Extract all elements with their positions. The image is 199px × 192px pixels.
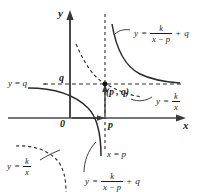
eq-top-equals: = — [140, 29, 148, 38]
eq-top-denominator: x − p — [150, 33, 172, 43]
eq-bot-numerator: k — [108, 172, 116, 181]
leader-top-equation — [115, 30, 130, 34]
label-asymptote-vertical: x = p — [107, 150, 126, 159]
eq-right-numerator: k — [172, 92, 180, 101]
eq-right-lhs: y — [155, 97, 161, 106]
eq-bl-fraction: k x — [22, 157, 32, 176]
eq-right-fraction: k x — [171, 92, 181, 111]
x-tick-label-p: p — [108, 120, 113, 130]
label-equation-translated-bottom: y = k x − p + q — [84, 172, 141, 191]
leader-lines-group — [40, 30, 152, 172]
y-tick-label-q: q — [59, 73, 64, 83]
eq-top-lhs: y — [133, 29, 139, 38]
label-asymptote-horizontal: y = q — [8, 79, 27, 88]
eq-bot-lhs: y — [84, 177, 90, 186]
eq-top-plus: + — [174, 29, 182, 38]
p-offset-arrowhead — [97, 115, 105, 120]
eq-bot-equals: = — [91, 177, 99, 186]
asymptote-h-text: y = q — [8, 79, 27, 88]
label-equation-base-right: y = k x — [155, 92, 181, 111]
leader-bottom-equation — [84, 142, 96, 172]
eq-top-numerator: k — [157, 24, 165, 33]
asymptote-v-text: x = p — [107, 150, 126, 159]
eq-bl-denominator: x — [23, 166, 31, 176]
eq-bot-denominator: x − p — [101, 181, 123, 191]
y-axis-label: y — [58, 8, 63, 19]
eq-bot-fraction: k x − p — [100, 172, 124, 191]
eq-bl-equals: = — [13, 162, 21, 171]
label-equation-translated-top: y = k x − p + q — [133, 24, 190, 43]
eq-bl-lhs: y — [6, 162, 12, 171]
point-label-p-q: (p , q) — [106, 88, 129, 98]
point-p-q-marker — [103, 82, 108, 87]
y-axis-arrowhead — [66, 10, 73, 20]
eq-bot-plus: + — [125, 177, 133, 186]
label-equation-base-bottomleft: y = k x — [6, 157, 32, 176]
eq-top-constant: q — [183, 29, 190, 38]
hyperbola-diagram: y x 0 q p y = q x = p (p , q) y = k x − … — [0, 0, 199, 192]
eq-right-equals: = — [162, 97, 170, 106]
eq-top-fraction: k x − p — [149, 24, 173, 43]
leader-bottomleft-equation — [40, 150, 60, 160]
eq-bot-constant: q — [134, 177, 141, 186]
eq-right-denominator: x — [172, 101, 180, 111]
leader-right-equation — [131, 97, 152, 101]
x-axis-label: x — [183, 120, 189, 131]
eq-bl-numerator: k — [23, 157, 31, 166]
origin-label: 0 — [60, 119, 65, 129]
